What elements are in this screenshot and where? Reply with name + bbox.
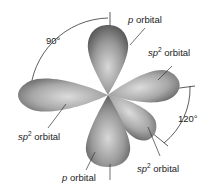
label-sp2-orbital-lower: sp2 orbital: [137, 164, 179, 174]
angle-label-90: 90°: [46, 36, 60, 46]
label-p-orbital-bottom: p orbital: [62, 173, 96, 183]
label-p-orbital-top: p orbital: [128, 15, 162, 25]
label-sp2-orbital-right: sp2 orbital: [148, 48, 190, 58]
angle-label-120: 120°: [178, 114, 198, 124]
p-orbital-top-lobe: [88, 25, 128, 95]
sp2-orbital-left-lobe: [18, 78, 108, 111]
label-sp2-orbital-left: sp2 orbital: [18, 132, 60, 142]
orbital-diagram: p orbital sp2 orbital 90° 120° sp2 orbit…: [0, 0, 209, 192]
